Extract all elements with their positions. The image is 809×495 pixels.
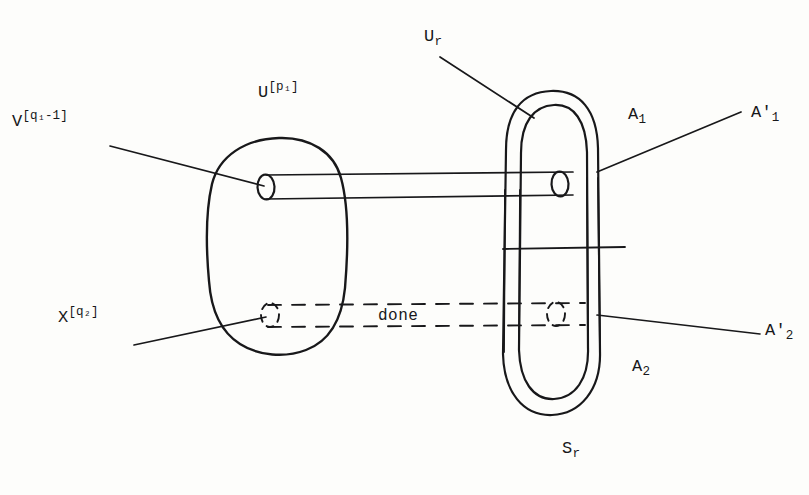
capsule-wall-right-outer <box>598 178 600 352</box>
capsule-wall-right-inner <box>587 178 588 348</box>
right-dashed-circle <box>547 302 565 326</box>
tube-bottom-edge <box>266 195 573 199</box>
label-a2-prime-base: A <box>765 321 775 340</box>
label-sr-base: S <box>562 439 572 458</box>
dashed-line-lower <box>268 325 585 327</box>
tube-top-edge <box>266 172 573 175</box>
label-ur-subscript: r <box>434 35 442 49</box>
label-a1-prime: A'1 <box>751 104 779 121</box>
label-a1-prime-subscript: 1 <box>772 111 780 125</box>
label-a2-subscript: 2 <box>642 365 650 379</box>
leader-line-v <box>110 146 264 186</box>
leader-line-x <box>134 317 266 345</box>
label-x-base: X <box>58 308 68 327</box>
label-v-base: V <box>12 112 22 131</box>
figure-canvas: V[q₁-1] U[p₁] X[q₂] Ur A1 A'1 A2 A'2 Sr … <box>0 0 809 495</box>
label-a2: A2 <box>632 358 650 375</box>
leader-line-ur <box>440 57 534 118</box>
label-u-superscript: [p₁] <box>268 80 298 94</box>
label-a2-prime-subscript: 2 <box>786 329 794 343</box>
label-a1-base: A <box>628 105 638 124</box>
label-done: done <box>378 308 418 324</box>
label-a1-prime-base: A <box>751 103 761 122</box>
label-v-superscript: [q₁-1] <box>22 109 67 123</box>
tube-left-mouth <box>257 174 275 200</box>
label-x-superscript: [q₂] <box>68 305 98 319</box>
label-sr: Sr <box>562 440 580 457</box>
tube-right-mouth <box>551 171 569 197</box>
label-a1: A1 <box>628 106 646 123</box>
dashed-line-upper <box>268 303 585 305</box>
diagram-svg <box>0 0 809 495</box>
label-a1-prime-mark: ' <box>761 103 771 122</box>
label-u-base: U <box>258 83 268 102</box>
leader-line-a2-prime <box>597 315 760 334</box>
label-a2-prime: A'2 <box>765 322 793 339</box>
label-a2-prime-mark: ' <box>775 321 785 340</box>
label-a2-base: A <box>632 357 642 376</box>
left-dashed-circle <box>261 303 279 327</box>
label-u: U[p₁] <box>258 84 299 101</box>
label-a1-subscript: 1 <box>638 113 646 127</box>
label-v: V[q₁-1] <box>12 113 68 130</box>
label-ur-base: U <box>424 27 434 46</box>
leader-line-a1-prime <box>597 112 741 172</box>
capsule-wall-left-outer <box>504 190 505 352</box>
label-ur: Ur <box>424 28 442 45</box>
label-sr-subscript: r <box>572 447 580 461</box>
right-capsule-inner <box>519 105 588 399</box>
label-x: X[q₂] <box>58 309 99 326</box>
capsule-horizontal-divider <box>503 247 625 249</box>
